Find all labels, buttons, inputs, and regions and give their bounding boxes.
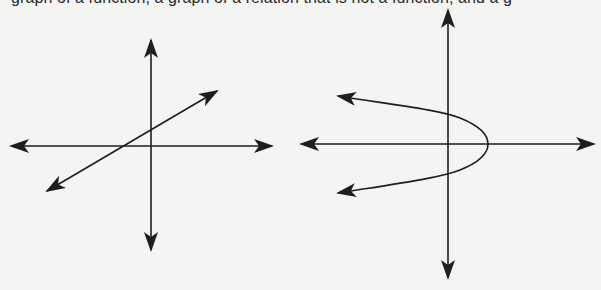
left-function-line bbox=[47, 91, 217, 191]
figure-graphs bbox=[0, 0, 601, 290]
left-graph bbox=[11, 40, 272, 250]
right-graph bbox=[301, 10, 594, 278]
